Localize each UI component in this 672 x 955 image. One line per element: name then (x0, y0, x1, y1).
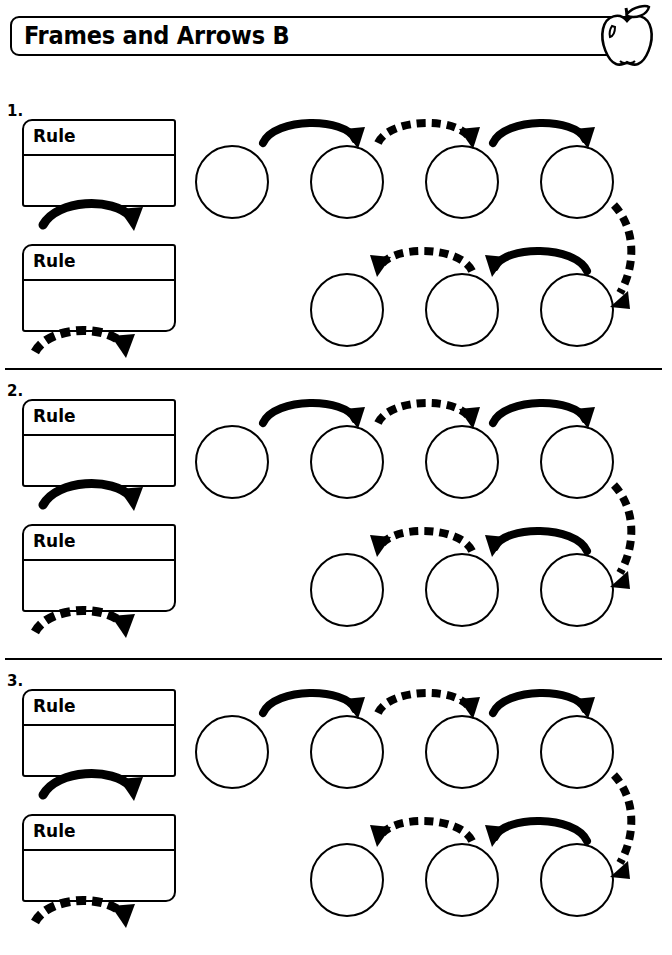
rule-box-divider (24, 154, 174, 156)
rule-dashed-arrow-icon (27, 316, 147, 366)
rule-label: Rule (33, 821, 76, 841)
chain-solid-arrow-icon (485, 385, 595, 431)
frame-circle[interactable] (425, 145, 499, 219)
rule-box-divider (24, 559, 174, 561)
rule-box-divider (24, 724, 174, 726)
frame-circle[interactable] (310, 425, 384, 499)
worksheet-problem: 1. Rule Rule (0, 88, 672, 358)
frame-circle[interactable] (425, 425, 499, 499)
rule-label: Rule (33, 696, 76, 716)
frame-circle[interactable] (310, 553, 384, 627)
rule-solid-arrow-icon (35, 761, 155, 811)
frame-circle[interactable] (425, 553, 499, 627)
chain-dashed-arrow-icon (370, 385, 480, 431)
frame-circle[interactable] (540, 843, 614, 917)
chain-dashed-arrow-icon (370, 513, 480, 559)
chain-dashed-arrow-icon (370, 105, 480, 151)
chain-solid-arrow-icon (485, 803, 595, 849)
chain-dashed-arrow-icon (370, 803, 480, 849)
chain-solid-arrow-icon (255, 105, 365, 151)
section-divider (5, 658, 662, 660)
rule-solid-arrow-icon (35, 191, 155, 241)
frame-circle[interactable] (310, 843, 384, 917)
frame-circle[interactable] (195, 145, 269, 219)
title-banner: Frames and Arrows B (10, 16, 638, 56)
frame-circle[interactable] (310, 273, 384, 347)
chain-solid-arrow-icon (255, 675, 365, 721)
chain-solid-arrow-icon (485, 513, 595, 559)
problem-number: 1. (7, 102, 23, 120)
rule-dashed-arrow-icon (27, 886, 147, 936)
chain-dashed-arrow-icon (370, 675, 480, 721)
worksheet-problem: 2. Rule Rule (0, 368, 672, 638)
problem-number: 3. (7, 672, 23, 690)
page-title: Frames and Arrows B (24, 21, 289, 50)
chain-solid-arrow-icon (485, 675, 595, 721)
frame-circle[interactable] (195, 425, 269, 499)
rule-box-divider (24, 434, 174, 436)
rule-box-divider (24, 849, 174, 851)
rule-label: Rule (33, 126, 76, 146)
frame-circle[interactable] (425, 273, 499, 347)
chain-solid-arrow-icon (485, 105, 595, 151)
rule-label: Rule (33, 406, 76, 426)
frame-circle[interactable] (540, 553, 614, 627)
rule-box-divider (24, 279, 174, 281)
frame-circle[interactable] (310, 145, 384, 219)
chain-solid-arrow-icon (485, 233, 595, 279)
frame-circle[interactable] (310, 715, 384, 789)
frame-circle[interactable] (425, 843, 499, 917)
frame-circle[interactable] (540, 273, 614, 347)
frame-circle[interactable] (425, 715, 499, 789)
worksheet-problem: 3. Rule Rule (0, 658, 672, 928)
chain-solid-arrow-icon (255, 385, 365, 431)
rule-dashed-arrow-icon (27, 596, 147, 646)
frame-circle[interactable] (195, 715, 269, 789)
chain-dashed-arrow-icon (370, 233, 480, 279)
rule-label: Rule (33, 251, 76, 271)
rule-solid-arrow-icon (35, 471, 155, 521)
section-divider (5, 368, 662, 370)
rule-label: Rule (33, 531, 76, 551)
problem-number: 2. (7, 382, 23, 400)
apple-icon (596, 3, 658, 69)
